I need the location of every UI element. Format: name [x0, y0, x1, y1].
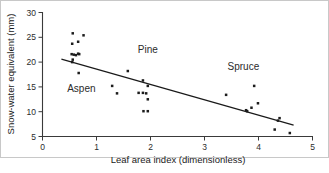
data-point: [111, 85, 114, 88]
cluster-label-spruce: Spruce: [228, 61, 260, 72]
y-tick-label: 30: [27, 8, 37, 18]
x-tick-label: 1: [94, 142, 99, 152]
cluster-label-aspen: Aspen: [67, 83, 95, 94]
figure-container: 5 10 15 20 25 30 0 1 2 3 4 5: [0, 0, 329, 173]
data-point: [246, 110, 249, 113]
x-axis-title: Leaf area index (dimensionless): [111, 154, 246, 165]
data-point: [225, 94, 228, 97]
data-point: [71, 58, 74, 61]
x-axis-ticks: 0 1 2 3 4 5: [40, 137, 315, 153]
y-tick-label: 5: [31, 132, 36, 142]
data-point: [127, 70, 130, 73]
data-point: [289, 132, 292, 135]
data-point: [71, 32, 74, 35]
data-point: [75, 54, 78, 57]
x-tick-label: 5: [310, 142, 315, 152]
data-point: [142, 110, 145, 113]
data-point: [82, 34, 85, 37]
cluster-label-pine: Pine: [138, 44, 158, 55]
data-point: [77, 72, 80, 75]
data-points-group: [70, 32, 291, 134]
y-axis-title: Snow-water equivalent (mm): [5, 14, 16, 135]
x-tick-label: 0: [40, 142, 45, 152]
y-tick-label: 25: [27, 32, 37, 42]
data-point: [277, 119, 280, 122]
data-point: [147, 110, 150, 113]
data-point: [142, 79, 145, 82]
caption-remnant: [6, 162, 126, 171]
data-point: [147, 98, 150, 101]
data-point: [273, 128, 276, 131]
y-tick-label: 20: [27, 57, 37, 67]
data-point: [116, 92, 119, 95]
data-point: [145, 92, 148, 95]
data-point: [278, 117, 281, 120]
y-tick-label: 10: [27, 107, 37, 117]
data-point: [71, 61, 74, 64]
data-point: [137, 92, 140, 95]
data-point: [257, 102, 260, 105]
data-point: [147, 85, 150, 88]
data-point: [71, 43, 74, 46]
scatter-plot: 5 10 15 20 25 30 0 1 2 3 4 5: [0, 0, 329, 173]
data-point: [142, 92, 145, 95]
data-point: [78, 53, 81, 56]
x-tick-label: 3: [202, 142, 207, 152]
y-axis-ticks: 5 10 15 20 25 30: [27, 8, 43, 142]
x-tick-label: 4: [256, 142, 261, 152]
x-tick-label: 2: [148, 142, 153, 152]
data-point: [77, 41, 80, 44]
data-point: [73, 53, 76, 56]
y-tick-label: 15: [27, 82, 37, 92]
data-point: [253, 85, 256, 88]
data-point: [250, 106, 253, 109]
data-point: [70, 53, 73, 56]
